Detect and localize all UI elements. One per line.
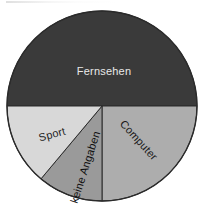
pie-slice-fernsehen[interactable] [7,11,197,106]
pie-chart-canvas [0,0,205,214]
pie-slice-computer[interactable] [102,106,197,201]
pie-chart: Fernsehen Sport keine Angaben Computer [0,0,205,214]
